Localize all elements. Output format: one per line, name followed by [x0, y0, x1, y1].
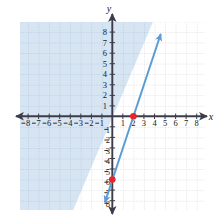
x-tick-label: 6 — [173, 118, 177, 128]
x-tick-label: 3 — [79, 118, 83, 128]
x-tick-label: 1 — [100, 118, 104, 128]
x-tick-label: 2 — [89, 118, 93, 128]
y-tick-label: 3 — [103, 80, 107, 90]
y-tick-label: 8 — [103, 27, 107, 37]
x-tick-label: 1 — [121, 118, 125, 128]
x-tick-label: 5 — [163, 118, 167, 128]
point-x-intercept — [130, 113, 137, 120]
x-tick-label: 8 — [26, 118, 30, 128]
graph-canvas: 8 7 6 5 4 3 2 1 1 2 3 4 5 6 7 8 — [0, 0, 223, 224]
x-tick-label: 8 — [195, 118, 199, 128]
x-tick-label: 3 — [142, 118, 146, 128]
y-tick-label: 1 — [103, 101, 107, 111]
x-tick-label: 7 — [184, 118, 188, 128]
x-tick-label: 5 — [58, 118, 62, 128]
coordinate-graph: 8 7 6 5 4 3 2 1 1 2 3 4 5 6 7 8 — [0, 0, 223, 224]
point-y-intercept — [109, 176, 116, 183]
y-tick-label: 5 — [103, 59, 107, 69]
x-tick-label: 6 — [47, 118, 51, 128]
x-axis-label: x — [208, 111, 214, 122]
y-tick-label: 2 — [103, 90, 107, 100]
y-axis-label: y — [106, 3, 112, 14]
x-tick-label: 4 — [68, 118, 73, 128]
y-tick-label: 7 — [103, 38, 107, 48]
y-tick-label: 6 — [103, 48, 107, 58]
x-tick-label: 7 — [36, 118, 40, 128]
